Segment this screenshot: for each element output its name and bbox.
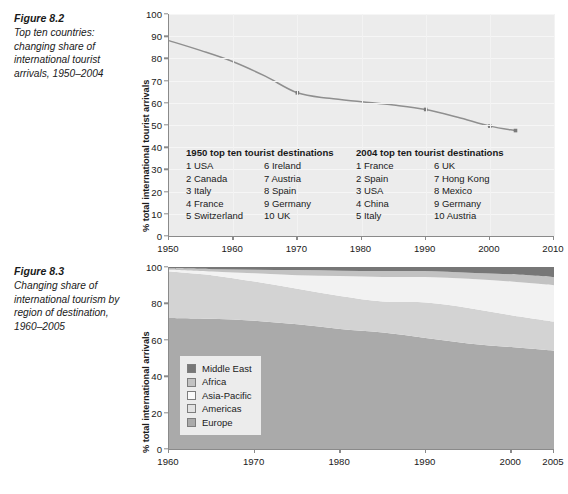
x-axis-tick-label: 1970 (234, 456, 274, 467)
legend-item[interactable]: Europe (187, 416, 252, 429)
y-axis-tick-label: 70 (136, 75, 162, 86)
destinations-tables: 1950 top ten tourist destinations 1 USA … (186, 147, 504, 222)
y-axis-tick-mark (164, 191, 168, 192)
line-series-path (169, 41, 516, 131)
list-item: 9 Germany (264, 198, 334, 210)
y-axis-tick-label: 50 (136, 120, 162, 131)
legend-label: Middle East (202, 362, 252, 375)
legend-swatch-middle-east (187, 364, 196, 373)
list-item: 2 Canada (186, 173, 264, 185)
y-axis-tick-mark (164, 169, 168, 170)
list-item: 7 Hong Kong (434, 173, 504, 185)
y-axis-tick-mark (164, 339, 168, 340)
legend-item[interactable]: Africa (187, 375, 252, 388)
list-item: 2 Spain (356, 173, 434, 185)
x-axis-tick-mark (489, 236, 490, 240)
x-axis-tick-mark (232, 236, 233, 240)
x-axis-tick-mark (168, 449, 169, 453)
legend-item[interactable]: Asia-Pacific (187, 389, 252, 402)
y-axis-tick-label: 100 (136, 9, 162, 20)
list-item: 7 Austria (264, 173, 334, 185)
list-item: 10 UK (264, 210, 334, 222)
x-axis-tick-label: 1990 (405, 456, 445, 467)
list-item: 6 Ireland (264, 160, 334, 172)
figure-8-3-caption-text: Changing share of international tourism … (14, 279, 126, 333)
y-axis-tick-label: 80 (136, 298, 162, 309)
y-axis-tick-mark (164, 375, 168, 376)
x-axis-tick-mark (425, 449, 426, 453)
x-axis-tick-mark (425, 236, 426, 240)
x-axis-tick-mark (553, 449, 554, 453)
legend-item[interactable]: Americas (187, 402, 252, 415)
y-axis-tick-label: 20 (136, 407, 162, 418)
y-axis-tick-label: 60 (136, 97, 162, 108)
y-axis-tick-mark (164, 146, 168, 147)
y-axis-tick-label: 0 (136, 231, 162, 242)
x-axis-tick-label: 2005 (533, 456, 568, 467)
figure-8-2-number: Figure 8.2 (14, 12, 126, 25)
destinations-2004: 2004 top ten tourist destinations 1 Fran… (356, 147, 504, 222)
y-axis-tick-label: 90 (136, 31, 162, 42)
list-item: 10 Austria (434, 210, 504, 222)
y-axis-tick-mark (164, 58, 168, 59)
x-axis-tick-label: 1960 (212, 243, 252, 254)
legend-label: Africa (202, 375, 226, 388)
y-axis-tick-label: 0 (136, 444, 162, 455)
destinations-1950-heading: 1950 top ten tourist destinations (186, 147, 334, 159)
destinations-2004-heading: 2004 top ten tourist destinations (356, 147, 504, 159)
destinations-2004-col-left: 1 France 2 Spain 3 USA 4 China 5 Italy (356, 160, 434, 222)
x-axis-tick-label: 1970 (276, 243, 316, 254)
grid-line (554, 14, 555, 236)
x-axis-tick-label: 1980 (341, 243, 381, 254)
y-axis-tick-mark (164, 102, 168, 103)
y-axis-tick-label: 40 (136, 371, 162, 382)
x-axis-tick-mark (296, 236, 297, 240)
y-axis-tick-mark (164, 266, 168, 267)
legend-label: Asia-Pacific (202, 389, 252, 402)
y-axis-tick-mark (164, 213, 168, 214)
list-item: 3 USA (356, 185, 434, 197)
figure-8-3: Figure 8.3 Changing share of internation… (0, 255, 560, 494)
y-axis-tick-mark (164, 13, 168, 14)
destinations-2004-col-right: 6 UK 7 Hong Kong 8 Mexico 9 Germany 10 A… (434, 160, 504, 222)
list-item: 1 France (356, 160, 434, 172)
legend-item[interactable]: Middle East (187, 362, 252, 375)
legend-swatch-asia-pacific (187, 391, 196, 400)
legend-swatch-africa (187, 378, 196, 387)
legend-label: Americas (202, 402, 242, 415)
x-axis-tick-label: 1990 (405, 243, 445, 254)
list-item: 5 Italy (356, 210, 434, 222)
area-chart-y-axis-label: % total international arrivals (141, 331, 151, 453)
x-axis-tick-label: 2000 (490, 456, 530, 467)
legend-label: Europe (202, 416, 233, 429)
figure-8-2-caption-text: Top ten countries: changing share of int… (14, 26, 126, 80)
list-item: 4 France (186, 198, 264, 210)
figure-8-3-caption: Figure 8.3 Changing share of internation… (14, 265, 126, 333)
x-axis-tick-label: 2000 (469, 243, 509, 254)
figure-8-2: Figure 8.2 Top ten countries: changing s… (0, 0, 560, 255)
y-axis-tick-label: 100 (136, 262, 162, 273)
x-axis-tick-mark (553, 236, 554, 240)
y-axis-tick-mark (164, 80, 168, 81)
x-axis-tick-label: 1960 (148, 456, 188, 467)
list-item: 1 USA (186, 160, 264, 172)
destinations-1950-col-left: 1 USA 2 Canada 3 Italy 4 France 5 Switze… (186, 160, 264, 222)
y-axis-tick-label: 40 (136, 142, 162, 153)
figure-8-2-caption: Figure 8.2 Top ten countries: changing s… (14, 12, 126, 80)
list-item: 9 Germany (434, 198, 504, 210)
y-axis-tick-label: 20 (136, 186, 162, 197)
x-axis-tick-mark (339, 449, 340, 453)
y-axis-tick-mark (164, 412, 168, 413)
y-axis-tick-mark (164, 303, 168, 304)
x-axis-tick-mark (168, 236, 169, 240)
legend-swatch-europe (187, 418, 196, 427)
list-item: 6 UK (434, 160, 504, 172)
y-axis-tick-mark (164, 124, 168, 125)
y-axis-tick-label: 60 (136, 334, 162, 345)
list-item: 8 Spain (264, 185, 334, 197)
x-axis-tick-mark (254, 449, 255, 453)
x-axis-tick-label: 2010 (533, 243, 568, 254)
list-item: 5 Switzerland (186, 210, 264, 222)
list-item: 8 Mexico (434, 185, 504, 197)
legend-swatch-americas (187, 404, 196, 413)
